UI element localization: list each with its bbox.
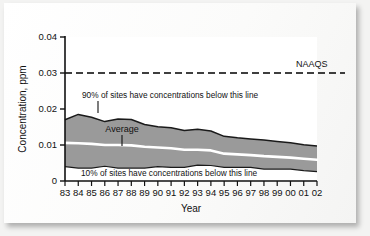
x-axis-ticks: 8384858687888990919293949596979899000102 xyxy=(60,181,323,198)
y-axis-tick-label: 0.01 xyxy=(39,139,58,150)
x-axis-tick-label: 93 xyxy=(192,187,203,198)
x-axis-tick-label: 97 xyxy=(245,187,256,198)
y-axis-tick-label: 0.02 xyxy=(39,103,58,114)
x-axis-tick-label: 86 xyxy=(100,187,111,198)
x-axis-tick-label: 01 xyxy=(298,187,309,198)
y-axis-tick-label: 0 xyxy=(52,175,57,186)
x-axis-tick-label: 95 xyxy=(219,187,230,198)
x-axis-tick-label: 92 xyxy=(179,187,190,198)
lower-percentile-note: 10% of sites have concentrations below t… xyxy=(81,168,258,178)
x-axis-tick-label: 94 xyxy=(206,187,217,198)
figure-root: NAAQS 00.010.020.030.04 8384858687888990… xyxy=(0,0,370,236)
x-axis-tick-label: 99 xyxy=(272,187,283,198)
x-axis-tick-label: 87 xyxy=(113,187,124,198)
x-axis-title: Year xyxy=(181,203,202,214)
x-axis-tick-label: 90 xyxy=(153,187,164,198)
y-axis-tick-label: 0.03 xyxy=(39,67,58,78)
naaqs-label: NAAQS xyxy=(296,59,328,69)
percentile-band-chart: NAAQS 00.010.020.030.04 8384858687888990… xyxy=(0,0,370,236)
chart-container: NAAQS 00.010.020.030.04 8384858687888990… xyxy=(0,0,370,236)
x-axis-tick-label: 02 xyxy=(312,187,323,198)
x-axis-tick-label: 91 xyxy=(166,187,177,198)
x-axis-tick-label: 83 xyxy=(60,187,71,198)
x-axis-tick-label: 84 xyxy=(73,187,84,198)
x-axis-tick-label: 85 xyxy=(86,187,97,198)
y-axis-ticks: 00.010.020.030.04 xyxy=(39,31,66,186)
upper-percentile-note: 90% of sites have concentrations below t… xyxy=(82,90,259,100)
average-note: Average xyxy=(105,124,138,134)
x-axis-tick-label: 89 xyxy=(139,187,150,198)
y-axis-title: Concentration, ppm xyxy=(17,65,28,152)
x-axis-tick-label: 00 xyxy=(285,187,296,198)
y-axis-tick-label: 0.04 xyxy=(39,31,58,42)
x-axis-tick-label: 96 xyxy=(232,187,243,198)
x-axis-tick-label: 88 xyxy=(126,187,137,198)
x-axis-tick-label: 98 xyxy=(259,187,270,198)
